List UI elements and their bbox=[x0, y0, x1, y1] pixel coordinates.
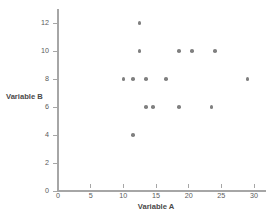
plot-area bbox=[58, 9, 254, 191]
y-tick-label: 2 bbox=[31, 159, 49, 166]
y-tick-label: 8 bbox=[31, 75, 49, 82]
y-tick-label: 12 bbox=[31, 19, 49, 26]
y-tick-mark bbox=[53, 107, 57, 108]
x-tick-label: 20 bbox=[179, 192, 199, 199]
y-tick-label: 4 bbox=[31, 131, 49, 138]
y-tick-mark bbox=[53, 23, 57, 24]
data-point bbox=[190, 49, 194, 53]
data-point bbox=[164, 77, 168, 81]
y-tick-label: 6 bbox=[31, 103, 49, 110]
y-tick-mark bbox=[53, 79, 57, 80]
x-tick-label: 5 bbox=[81, 192, 101, 199]
data-point bbox=[246, 77, 250, 81]
x-axis-title: Variable A bbox=[0, 203, 274, 211]
data-point bbox=[122, 77, 126, 81]
y-tick-mark bbox=[53, 51, 57, 52]
y-tick-mark bbox=[53, 163, 57, 164]
data-point bbox=[131, 77, 135, 81]
x-tick-label: 25 bbox=[211, 192, 231, 199]
data-point bbox=[213, 49, 217, 53]
x-tick-label: 15 bbox=[146, 192, 166, 199]
scatter-plot-figure: 024681012 051015202530 Variable B Variab… bbox=[0, 0, 274, 217]
x-tick-label: 10 bbox=[113, 192, 133, 199]
data-point bbox=[151, 105, 155, 109]
y-tick-mark bbox=[53, 135, 57, 136]
data-point bbox=[144, 77, 148, 81]
data-point bbox=[138, 49, 142, 53]
y-axis-title: Variable B bbox=[6, 93, 43, 101]
data-point bbox=[177, 105, 181, 109]
x-tick-label: 0 bbox=[48, 192, 68, 199]
data-point bbox=[131, 133, 135, 137]
data-point bbox=[144, 105, 148, 109]
data-point bbox=[177, 49, 181, 53]
y-tick-label: 0 bbox=[31, 187, 49, 194]
x-tick-label: 30 bbox=[244, 192, 264, 199]
data-point bbox=[138, 21, 142, 25]
y-tick-label: 10 bbox=[31, 47, 49, 54]
data-point bbox=[210, 105, 214, 109]
